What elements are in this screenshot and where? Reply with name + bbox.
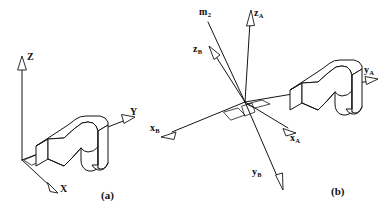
x-axis-arrowhead xyxy=(48,183,59,194)
panel-b-graphics xyxy=(161,10,378,190)
m2-vector-label: m2 xyxy=(199,7,211,17)
y-axis-label: Y xyxy=(130,107,137,117)
za-axis-line xyxy=(245,22,250,102)
z-axis-label: Z xyxy=(27,52,34,62)
bracket-a-front-face xyxy=(48,122,98,171)
figure-root: Z Y X (a) m2 zA zB xB xA yB yA (b) xyxy=(0,0,388,217)
ya-axis-arrowhead xyxy=(365,77,378,85)
za-axis-label: zA xyxy=(254,8,263,18)
x-axis-label: X xyxy=(60,184,67,194)
yb-axis-label: yB xyxy=(252,167,261,177)
panel-a-caption: (a) xyxy=(101,189,114,201)
z-axis-arrowhead xyxy=(18,56,27,70)
zb-axis-arrowhead xyxy=(209,46,220,60)
xb-axis-label: xB xyxy=(150,123,159,133)
panel-b-caption: (b) xyxy=(331,185,344,197)
xb-axis-line xyxy=(172,102,245,132)
bracket-solid-b xyxy=(290,60,362,115)
xb-axis-arrowhead xyxy=(161,132,176,140)
yb-axis-arrowhead xyxy=(276,173,284,190)
zb-axis-label: zB xyxy=(193,44,202,54)
zb-axis-line xyxy=(215,55,245,102)
m2-vector-line xyxy=(208,22,245,102)
xa-axis-label: xA xyxy=(290,133,300,143)
bracket-solid-a xyxy=(36,116,108,171)
panel-a-graphics xyxy=(18,56,135,193)
figure-canvas xyxy=(0,0,388,217)
bracket-b-front-face xyxy=(302,66,352,115)
ya-axis-label: yA xyxy=(364,65,374,75)
